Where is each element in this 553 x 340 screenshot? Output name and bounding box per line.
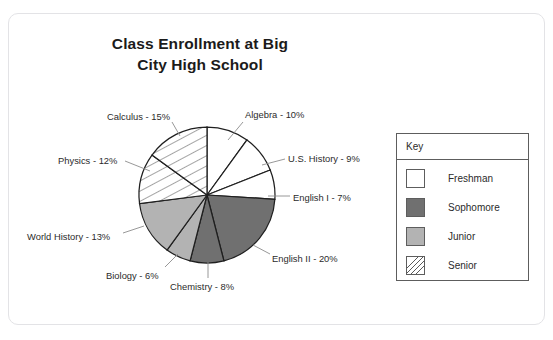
- legend-key: Key FreshmanSophomoreJuniorSenior: [396, 133, 529, 281]
- slice-label-physics: Physics - 12%: [58, 155, 117, 166]
- legend-swatch-freshman: [406, 169, 425, 188]
- slice-label-english-ii: English II - 20%: [272, 253, 338, 264]
- slice-label-biology: Biology - 6%: [106, 270, 159, 281]
- slice-label-u-s-history: U.S. History - 9%: [288, 153, 360, 164]
- slice-label-world-history: World History - 13%: [27, 231, 110, 242]
- slice-label-chemistry: Chemistry - 8%: [170, 281, 234, 292]
- legend-label-junior: Junior: [448, 231, 475, 242]
- legend-items: FreshmanSophomoreJuniorSenior: [397, 160, 528, 280]
- legend-swatch-junior: [406, 227, 425, 246]
- leader-line: [253, 245, 270, 254]
- legend-row-freshman: Freshman: [397, 164, 528, 193]
- legend-label-senior: Senior: [448, 260, 477, 271]
- slice-label-algebra: Algebra - 10%: [245, 109, 304, 120]
- legend-swatch-senior: [406, 256, 425, 275]
- legend-label-freshman: Freshman: [448, 173, 493, 184]
- leader-line: [165, 254, 178, 267]
- chart-page: Class Enrollment at Big City High School…: [0, 0, 553, 340]
- legend-swatch-sophomore: [406, 198, 425, 217]
- slice-label-english-i: English I - 7%: [293, 192, 351, 203]
- pie-slices: [139, 127, 275, 263]
- leader-line: [123, 226, 144, 233]
- slice-label-calculus: Calculus - 15%: [107, 111, 170, 122]
- legend-row-junior: Junior: [397, 222, 528, 251]
- legend-row-sophomore: Sophomore: [397, 193, 528, 222]
- legend-title: Key: [397, 134, 528, 160]
- legend-row-senior: Senior: [397, 251, 528, 280]
- legend-label-sophomore: Sophomore: [448, 202, 500, 213]
